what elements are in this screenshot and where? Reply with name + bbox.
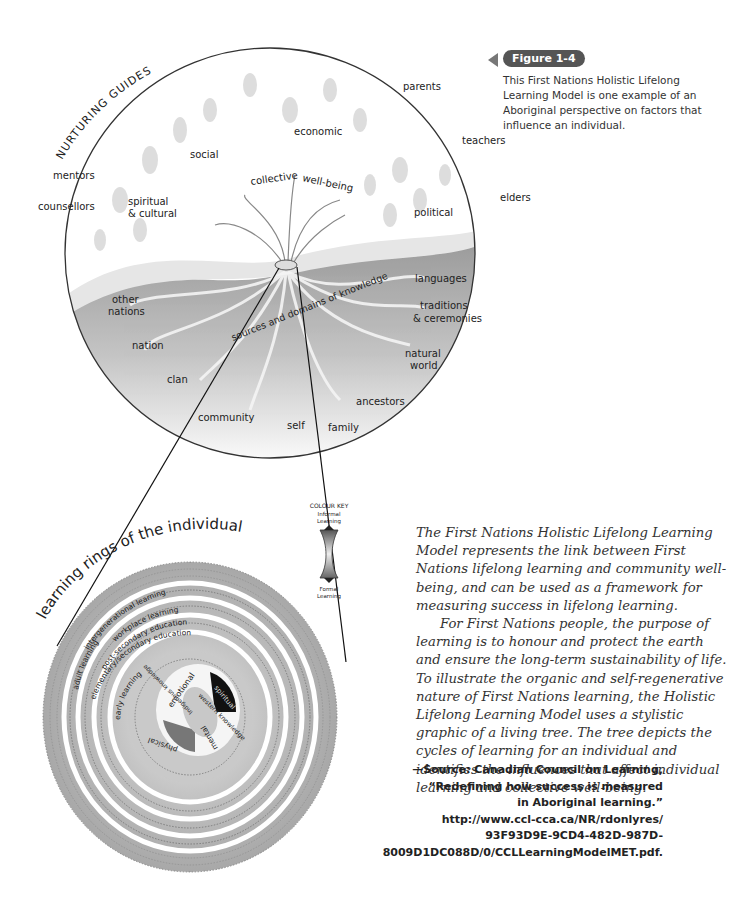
svg-text:Learning: Learning	[317, 518, 341, 525]
colour-key: COLOUR KEY Informal Learning Formal Lear…	[310, 502, 349, 600]
source-line: in Aboriginal learning.”	[343, 795, 663, 812]
source-line: —Source: Canadian Council on Learning,	[343, 762, 663, 779]
label-family: family	[328, 422, 359, 433]
label-clan: clan	[167, 374, 188, 385]
svg-text:Formal: Formal	[320, 586, 339, 592]
label-self: self	[287, 420, 305, 431]
label-ceremonies: & ceremonies	[413, 313, 482, 324]
label-economic: economic	[294, 126, 342, 137]
label-other: other	[112, 294, 140, 305]
label-community: community	[198, 412, 254, 423]
body-text: The First Nations Holistic Lifelong Lear…	[416, 524, 728, 797]
label-natural: natural	[405, 348, 441, 359]
tree-circle	[60, 45, 480, 470]
figure-caption: This First Nations Holistic Lifelong Lea…	[503, 73, 728, 133]
label-nation: nation	[132, 340, 164, 351]
caption-pointer-icon	[488, 53, 498, 67]
label-traditions: traditions	[420, 300, 468, 311]
label-political: political	[414, 207, 453, 218]
label-nations: nations	[108, 306, 145, 317]
label-spiritual: spiritual	[128, 196, 168, 207]
source-url-line: 8009D1DC088D/0/CCLLearningModelMET.pdf.	[343, 845, 663, 862]
label-ancestors: ancestors	[356, 396, 405, 407]
label-cultural: & cultural	[128, 208, 177, 219]
label-social: social	[190, 149, 219, 160]
label-counsellors: counsellors	[38, 201, 95, 212]
body-paragraph-1: The First Nations Holistic Lifelong Lear…	[416, 524, 728, 615]
label-languages: languages	[415, 273, 467, 284]
learning-rings: emotional spiritual western knowledge In…	[43, 562, 337, 872]
label-world: world	[410, 360, 438, 371]
svg-text:Learning: Learning	[317, 593, 341, 600]
source-line: “Redefining how success is measured	[343, 779, 663, 796]
label-mentors: mentors	[53, 170, 95, 181]
label-elders: elders	[500, 192, 531, 203]
svg-text:COLOUR KEY: COLOUR KEY	[310, 502, 349, 509]
label-parents: parents	[403, 81, 441, 92]
source-citation: —Source: Canadian Council on Learning, “…	[343, 762, 663, 861]
label-teachers: teachers	[462, 135, 506, 146]
figure-badge: Figure 1-4	[503, 50, 585, 67]
source-url-line: 93F93D9E-9CD4-482D-987D-	[343, 828, 663, 845]
svg-text:Informal: Informal	[318, 511, 341, 517]
source-url-line: http://www.ccl-cca.ca/NR/rdonlyres/	[343, 812, 663, 829]
